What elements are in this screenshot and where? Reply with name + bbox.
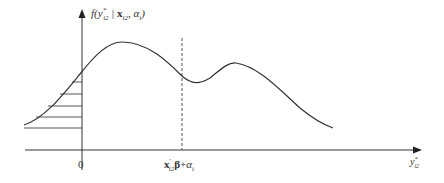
x-axis-arrow-icon [413,147,422,154]
x-axis-label: y*i2 [410,156,419,169]
density-diagram [0,0,444,183]
y-axis-arrow-icon [79,9,86,18]
mean-marker-label: x'i2β+αi [164,157,194,173]
y-axis-label: f(y*i2 | xi2, αi) [91,6,145,22]
density-curve [24,42,333,128]
origin-label: 0 [78,158,84,170]
